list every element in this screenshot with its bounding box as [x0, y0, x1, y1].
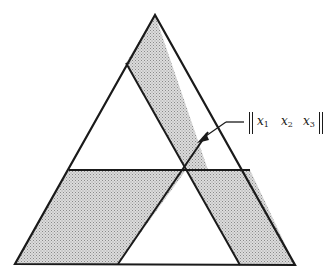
term-x1: x1 [257, 114, 269, 129]
norm-bar-left-2 [252, 112, 253, 134]
triangle-diagram [0, 0, 328, 279]
term-x3: x3 [303, 114, 315, 129]
term-x2: x2 [281, 114, 293, 129]
norm-bar-right-2 [322, 112, 323, 134]
shaded-lower-right-band [186, 170, 295, 265]
norm-bar-right-1 [319, 112, 320, 134]
diagram-canvas: x1 x2 x3 [0, 0, 328, 279]
norm-bar-left-1 [249, 112, 250, 134]
slanted-line-right [126, 63, 240, 265]
